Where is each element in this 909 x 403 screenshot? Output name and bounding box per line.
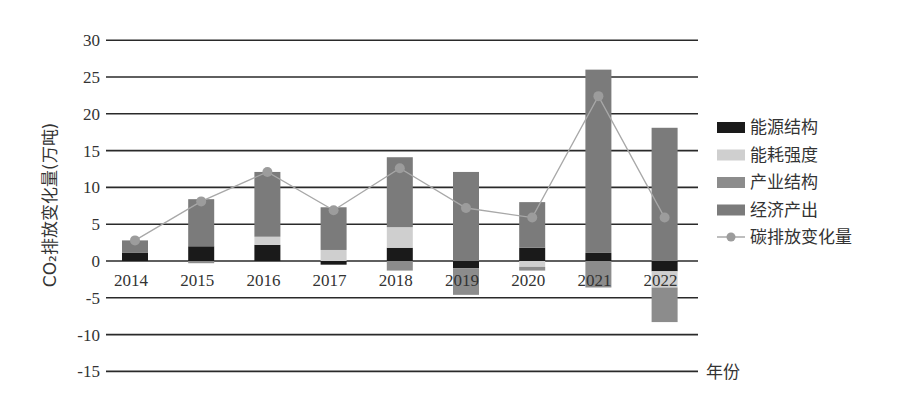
y-tick-label: 25 <box>83 68 100 87</box>
x-tick-label: 2022 <box>644 271 678 290</box>
bar-segment <box>387 227 413 248</box>
bar-segment <box>254 245 280 261</box>
bar-segment <box>188 261 214 263</box>
y-axis-label: CO₂排放变化量(万吨) <box>40 123 60 287</box>
bar-stack-2017 <box>321 207 347 264</box>
x-tick-label: 2017 <box>313 271 348 290</box>
bar-segment <box>519 202 545 248</box>
line-point <box>461 203 471 213</box>
legend-swatch <box>717 122 745 133</box>
bar-stack-2015 <box>188 199 214 263</box>
y-axis-ticks: 302520151050-5-10-15 <box>77 31 100 381</box>
y-tick-label: 30 <box>83 31 100 50</box>
line-point <box>527 213 537 223</box>
y-tick-label: 5 <box>92 215 101 234</box>
bar-stack-2016 <box>254 172 280 261</box>
x-tick-label: 2018 <box>379 271 413 290</box>
y-tick-label: -10 <box>77 326 100 345</box>
bar-stack-2021 <box>585 70 611 288</box>
line-point <box>262 167 272 177</box>
legend-label: 经济产出 <box>750 200 818 220</box>
bar-segment <box>254 237 280 245</box>
y-tick-label: -15 <box>77 362 100 381</box>
bar-segment <box>122 253 148 261</box>
bar-segment <box>519 248 545 261</box>
line-point <box>593 91 603 101</box>
bar-stack-2020 <box>519 202 545 270</box>
bar-segment <box>387 248 413 261</box>
y-tick-label: 20 <box>83 105 100 124</box>
legend-label: 产业结构 <box>750 172 818 192</box>
stacked-bar-chart: 302520151050-5-10-15 2014201520162017201… <box>0 0 909 403</box>
bar-segment <box>453 261 479 268</box>
bar-segment <box>453 172 479 261</box>
x-tick-label: 2019 <box>445 271 479 290</box>
bar-segment <box>519 261 545 267</box>
legend-swatch <box>717 150 745 161</box>
bar-stack-2022 <box>652 128 678 322</box>
line-point <box>660 213 670 223</box>
bar-segment <box>321 261 347 265</box>
legend: 能源结构能耗强度产业结构经济产出碳排放变化量 <box>717 117 852 247</box>
x-axis-label: 年份 <box>706 362 740 382</box>
legend-marker <box>727 233 736 242</box>
line-point <box>130 235 140 245</box>
bar-segment <box>321 250 347 261</box>
y-tick-label: -5 <box>86 289 100 308</box>
bar-segment <box>652 261 678 271</box>
bar-segment <box>387 261 413 271</box>
legend-label: 碳排放变化量 <box>750 227 852 247</box>
x-tick-label: 2020 <box>511 271 545 290</box>
x-axis-ticks: 201420152016201720182019202020212022 <box>114 271 678 290</box>
y-tick-label: 15 <box>83 142 100 161</box>
x-tick-label: 2021 <box>577 271 611 290</box>
bar-segment <box>652 287 678 322</box>
legend-label: 能耗强度 <box>750 145 818 165</box>
bar-segment <box>652 128 678 261</box>
line-point <box>196 196 206 206</box>
line-point <box>329 205 339 215</box>
legend-swatch <box>717 205 745 216</box>
bar-segment <box>254 172 280 237</box>
line-point <box>395 163 405 173</box>
x-tick-label: 2015 <box>180 271 214 290</box>
bar-segment <box>585 253 611 261</box>
x-tick-label: 2014 <box>114 271 149 290</box>
x-tick-label: 2016 <box>246 271 280 290</box>
y-tick-label: 10 <box>83 178 100 197</box>
legend-swatch <box>717 177 745 188</box>
bar-segment <box>188 246 214 261</box>
legend-label: 能源结构 <box>750 117 818 137</box>
y-tick-label: 0 <box>92 252 101 271</box>
